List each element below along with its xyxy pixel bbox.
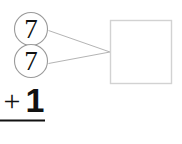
part-value-bottom: 7 (14, 44, 48, 78)
connector-line-bottom (49, 52, 111, 64)
part-value-top: 7 (14, 12, 48, 46)
plus-operator-icon: + (1, 86, 23, 116)
worksheet-canvas: 7 7 + 1 (0, 0, 182, 144)
addend-value: 1 (24, 84, 46, 116)
answer-box[interactable] (111, 21, 172, 84)
connector-line-top (49, 31, 111, 53)
